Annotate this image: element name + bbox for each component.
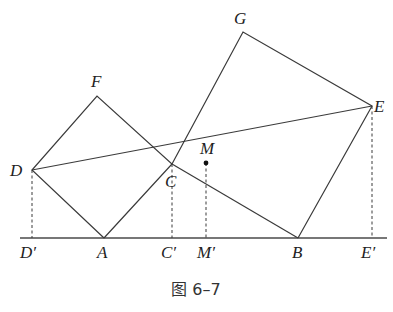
midpoint-m-dot — [204, 161, 209, 166]
square-adfc — [32, 96, 172, 238]
label-c: C — [165, 172, 177, 191]
label-e-prime: E′ — [360, 243, 375, 262]
label-g: G — [234, 9, 246, 28]
figure-caption: 图 6–7 — [171, 280, 220, 299]
segment-de — [32, 106, 372, 170]
label-d: D — [9, 161, 23, 180]
square-cgeb — [172, 32, 372, 238]
label-m: M — [199, 139, 215, 158]
label-d-prime: D′ — [19, 243, 36, 262]
label-c-prime: C′ — [161, 243, 176, 262]
label-b: B — [292, 243, 303, 262]
label-e: E — [373, 97, 385, 116]
geometry-diagram: D F G E M C D′ A C′ M′ B E′ 图 6–7 — [0, 0, 393, 312]
segment-cb — [172, 164, 298, 238]
label-m-prime: M′ — [196, 243, 215, 262]
label-a: A — [96, 243, 108, 262]
label-f: F — [90, 72, 102, 91]
